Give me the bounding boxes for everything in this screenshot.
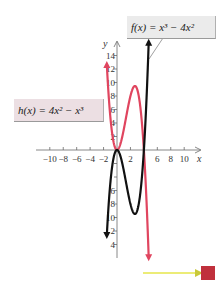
next-button[interactable] [143, 265, 217, 281]
function-graph: −10−8−6−4−2268101412108642681024 x y [0, 0, 221, 285]
h-label-text: h(x) = 4x² − x³ [18, 104, 83, 116]
svg-text:8: 8 [111, 199, 116, 209]
svg-text:2: 2 [128, 154, 133, 164]
y-axis-label: y [102, 38, 108, 49]
svg-text:8: 8 [169, 154, 174, 164]
svg-text:−2: −2 [99, 154, 109, 164]
svg-text:6: 6 [111, 186, 116, 196]
svg-text:−6: −6 [72, 154, 82, 164]
svg-text:−10: −10 [43, 154, 58, 164]
f-function-label: f(x) = x³ − 4x² [127, 16, 216, 39]
svg-text:2: 2 [111, 226, 116, 236]
stop-square-icon [201, 266, 215, 280]
svg-text:−8: −8 [58, 154, 68, 164]
svg-text:14: 14 [106, 51, 116, 61]
svg-text:−4: −4 [85, 154, 95, 164]
f-label-text: f(x) = x³ − 4x² [131, 21, 194, 33]
h-function-label: h(x) = 4x² − x³ [14, 99, 104, 122]
svg-text:8: 8 [111, 91, 116, 101]
x-axis-label: x [196, 153, 202, 164]
svg-text:10: 10 [180, 154, 190, 164]
svg-text:6: 6 [111, 105, 116, 115]
svg-text:4: 4 [111, 240, 116, 250]
svg-text:6: 6 [155, 154, 160, 164]
